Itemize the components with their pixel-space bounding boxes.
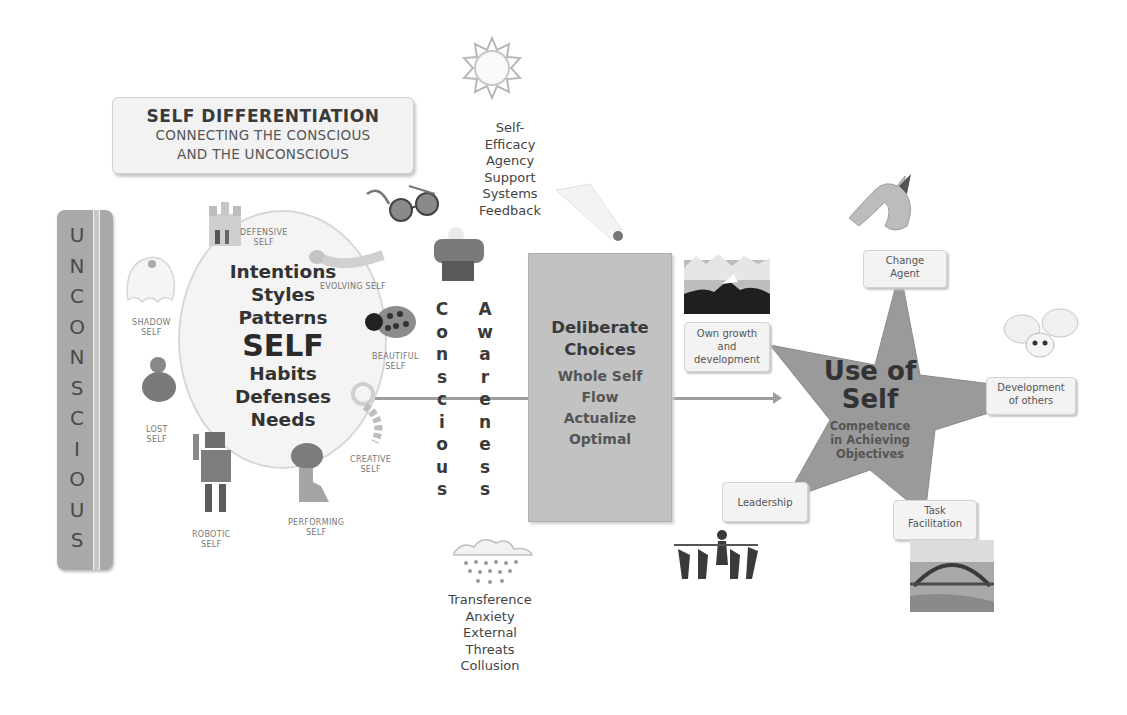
choices-title-line1: Deliberate (529, 317, 671, 339)
self-label-beautiful: BEAUTIFULSELF (372, 352, 419, 372)
duck-icon (138, 355, 180, 405)
bridge-icon (910, 540, 994, 612)
negative-factors: Transference Anxiety External Threats Co… (430, 592, 550, 675)
use-of-self-label: Use of Self Competence in Achieving Obje… (810, 357, 930, 461)
self-label-lost: LOSTSELF (146, 425, 168, 445)
positive-factors: Self- Efficacy Agency Support Systems Fe… (465, 120, 555, 219)
diagram-title: SELF DIFFERENTIATION (113, 106, 413, 126)
self-label-shadow: SHADOWSELF (132, 318, 171, 338)
outcome-own-growth: Own growth and development (684, 322, 770, 372)
self-word: Habits (188, 362, 378, 385)
connector-line-left (375, 397, 529, 400)
sunglasses-icon (365, 180, 445, 225)
unconscious-bar: U N C O N S C I O U S (57, 210, 113, 570)
self-word: Intentions (188, 260, 378, 283)
use-of-self-title-line1: Use of (810, 357, 930, 385)
shuttlecock-icon (550, 180, 630, 245)
rain-cloud-icon (448, 535, 538, 590)
self-word: Needs (188, 408, 378, 431)
self-word: Patterns (188, 306, 378, 329)
bar-stripe (93, 210, 100, 570)
use-of-self-title-line2: Self (810, 385, 930, 413)
performer-icon (285, 442, 335, 507)
sun-icon (460, 36, 524, 100)
choices-items: Whole Self Flow Actualize Optimal (529, 366, 671, 450)
ghost-icon (120, 250, 180, 310)
self-label-creative: CREATIVESELF (350, 455, 391, 475)
self-word: Styles (188, 283, 378, 306)
self-label-performing: PERFORMINGSELF (288, 518, 344, 538)
deliberate-choices-box: Deliberate Choices Whole Self Flow Actua… (528, 253, 672, 522)
conscious-column: C o n s c i o u s (432, 298, 452, 501)
self-word: Defenses (188, 385, 378, 408)
diagram-subtitle-line1: CONNECTING THE CONSCIOUS (113, 126, 413, 145)
self-word-center: SELF (188, 329, 378, 362)
people-group-icon (672, 525, 760, 585)
outcome-change-agent: Change Agent (863, 250, 947, 288)
use-of-self-subtitle: Competence in Achieving Objectives (810, 419, 930, 461)
mountain-icon (684, 250, 770, 314)
self-label-robotic: ROBOTICSELF (192, 530, 230, 550)
outcome-task-facilitation: Task Facilitation (893, 500, 977, 540)
gift-figure-icon (432, 225, 488, 283)
diagram-subtitle-line2: AND THE UNCONSCIOUS (113, 145, 413, 164)
title-box: SELF DIFFERENTIATION CONNECTING THE CONS… (112, 97, 414, 174)
fairy-icon (1000, 305, 1080, 370)
outcome-development-of-others: Development of others (986, 377, 1076, 415)
self-label-defensive: DEFENSIVESELF (240, 228, 288, 248)
dragon-icon (845, 170, 925, 240)
robot-icon (193, 430, 239, 515)
self-words: Intentions Styles Patterns SELF Habits D… (188, 260, 378, 431)
unconscious-letters: U N C O N S C I O U S (65, 220, 89, 556)
outcome-leadership: Leadership (722, 482, 808, 522)
awareness-column: A w a r e n e s s (475, 298, 495, 501)
castle-icon (205, 200, 245, 248)
choices-title-line2: Choices (529, 339, 671, 361)
